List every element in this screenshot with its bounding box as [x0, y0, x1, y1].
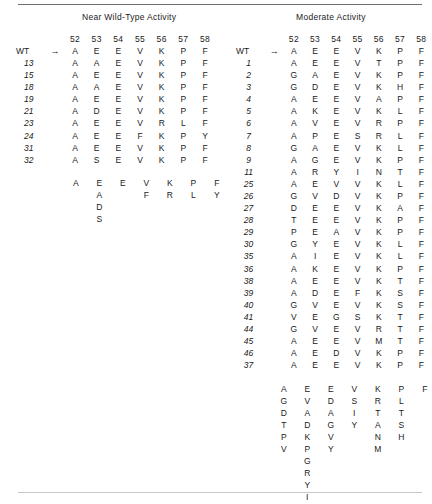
residue-54: E: [326, 214, 347, 226]
residue-58: F: [411, 335, 432, 347]
summary-residue: M: [366, 443, 390, 455]
summary-residue: A: [319, 407, 343, 419]
sequence-table: 52 53 54 55 56 57 58 WT → A E E V: [234, 33, 432, 372]
residue-53: A: [305, 69, 326, 81]
variant-arrow-spacer: [265, 275, 283, 287]
variant-row: 31AEEVKPF: [14, 142, 216, 154]
summary-residue: E: [296, 383, 320, 395]
summary-column-53: EADS: [88, 177, 112, 225]
residue-58: F: [411, 239, 432, 251]
residue-57: S: [389, 299, 410, 311]
wt-residue-58: F: [411, 45, 432, 57]
residue-54: E: [108, 154, 130, 166]
variant-arrow-spacer: [265, 239, 283, 251]
residue-56: K: [368, 178, 389, 190]
residue-53: E: [305, 57, 326, 69]
wt-residue-54: E: [326, 45, 347, 57]
variant-label: 31: [14, 142, 46, 154]
variant-label: 4: [234, 93, 265, 105]
sequence-table-body: 52 53 54 55 56 57 58 WT → A E E V: [14, 33, 216, 166]
variant-row: 8GAEVKLF: [234, 142, 432, 154]
wt-residue-57: P: [173, 45, 195, 57]
variant-arrow-spacer: [265, 178, 283, 190]
residue-54: E: [326, 251, 347, 263]
variant-arrow-spacer: [265, 130, 283, 142]
variant-row: 9AGEVKPF: [234, 154, 432, 166]
summary-residue: D: [296, 419, 320, 431]
residue-52: A: [283, 335, 304, 347]
residue-56: K: [368, 69, 389, 81]
residue-53: E: [305, 311, 326, 323]
residue-52: G: [283, 239, 304, 251]
residue-57: L: [389, 142, 410, 154]
residue-58: F: [411, 202, 432, 214]
residue-58: F: [411, 275, 432, 287]
residue-54: E: [326, 69, 347, 81]
residue-55: V: [129, 57, 151, 69]
residue-56: K: [368, 142, 389, 154]
residue-58: F: [411, 227, 432, 239]
residue-52: A: [283, 263, 304, 275]
residue-58: F: [194, 57, 216, 69]
wild-type-label: WT: [14, 45, 46, 57]
residue-57: P: [173, 130, 195, 142]
residue-54: D: [326, 347, 347, 359]
position-header-55: 55: [129, 33, 151, 45]
summary-residue: Y: [343, 419, 367, 431]
residue-53: E: [305, 227, 326, 239]
summary-column-57: PLTSH: [390, 383, 414, 504]
variant-row: 45AEEVMTF: [234, 335, 432, 347]
residue-57: P: [173, 81, 195, 93]
wt-residue-52: A: [283, 45, 304, 57]
residue-56: K: [368, 299, 389, 311]
variant-row: 24AEEFKPY: [14, 130, 216, 142]
header-spacer-label: [14, 33, 46, 45]
variant-row: 39ADEFKSF: [234, 287, 432, 299]
residue-58: F: [411, 299, 432, 311]
residue-56: R: [368, 130, 389, 142]
variant-row: 2GAEVKPF: [234, 69, 432, 81]
variant-label: 6: [234, 118, 265, 130]
residue-53: E: [305, 335, 326, 347]
residue-53: E: [305, 93, 326, 105]
residue-53: K: [305, 106, 326, 118]
residue-54: V: [326, 178, 347, 190]
variant-arrow-spacer: [46, 57, 64, 69]
variant-row: 32ASEVKPF: [14, 154, 216, 166]
residue-56: K: [151, 106, 173, 118]
residue-55: V: [347, 93, 368, 105]
panel-title: Moderate Activity: [216, 10, 432, 24]
variant-arrow-spacer: [265, 263, 283, 275]
variant-arrow-spacer: [265, 93, 283, 105]
residue-52: A: [283, 178, 304, 190]
top-rule: [18, 4, 422, 5]
summary-column-57: PL: [182, 177, 206, 225]
summary-residue: P: [272, 431, 296, 443]
wt-residue-55: V: [129, 45, 151, 57]
header-spacer-label: [234, 33, 265, 45]
residue-52: A: [64, 69, 86, 81]
residue-58: F: [411, 347, 432, 359]
residue-52: A: [283, 57, 304, 69]
summary-residue: D: [88, 201, 112, 213]
variant-arrow-spacer: [265, 347, 283, 359]
position-header-57: 57: [173, 33, 195, 45]
residue-57: L: [389, 130, 410, 142]
residue-57: P: [173, 154, 195, 166]
residue-53: V: [305, 118, 326, 130]
variant-arrow-spacer: [46, 93, 64, 105]
summary-residue: S: [88, 213, 112, 225]
residue-58: F: [194, 93, 216, 105]
variant-row: 37AEEVKPF: [234, 360, 432, 372]
residue-56: K: [368, 154, 389, 166]
variant-label: 37: [234, 360, 265, 372]
residue-52: G: [283, 190, 304, 202]
summary-residue: V: [135, 177, 159, 189]
summary-residue: P: [390, 383, 414, 395]
variant-arrow-spacer: [265, 251, 283, 263]
residue-55: F: [129, 130, 151, 142]
residue-54: E: [326, 118, 347, 130]
wt-residue-53: E: [86, 45, 108, 57]
residue-57: T: [389, 323, 410, 335]
residue-55: V: [129, 118, 151, 130]
